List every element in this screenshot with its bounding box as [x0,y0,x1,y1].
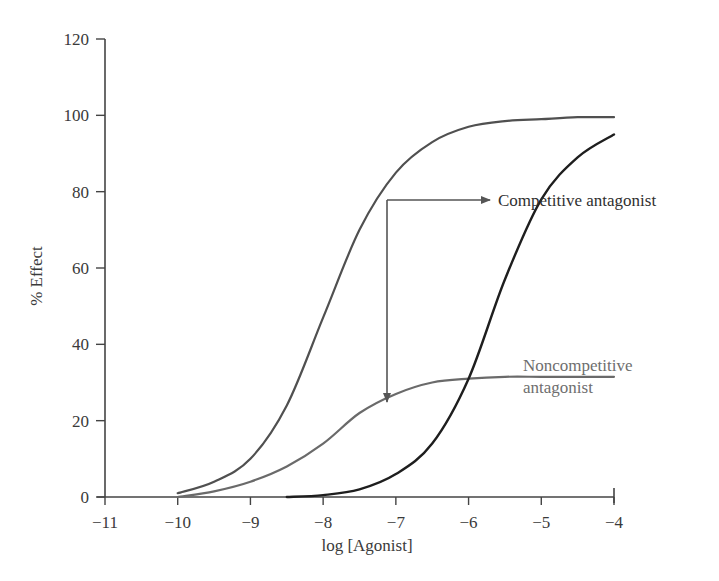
axes [97,39,614,503]
y-axis-title: % Effect [27,246,46,306]
y-ticks: 020406080100120 [64,30,106,507]
agonist-alone-curve [178,117,614,493]
y-tick-label: 120 [64,30,90,49]
annotations: Competitive antagonist Noncompetitive an… [387,191,656,402]
x-axis-title: log [Agonist] [321,536,412,555]
competitive-antagonist-label: Competitive antagonist [498,191,656,210]
y-tick-label: 40 [72,335,89,354]
x-tick-label: −11 [92,513,118,532]
y-tick-label: 20 [72,412,89,431]
y-tick-label: 0 [81,488,90,507]
y-tick-label: 60 [72,259,89,278]
x-tick-label: −9 [241,513,259,532]
y-tick-label: 100 [64,106,90,125]
x-tick-label: −10 [164,513,191,532]
x-tick-label: −5 [532,513,550,532]
x-tick-label: −7 [387,513,406,532]
competitive-curve [287,134,614,497]
noncompetitive-antagonist-label-line2: antagonist [523,378,593,397]
noncompetitive-antagonist-label-line1: Noncompetitive [523,356,633,375]
y-tick-label: 80 [72,183,89,202]
x-ticks: −11−10−9−8−7−6−5−4 [92,497,624,532]
series-lines [178,117,614,497]
x-tick-label: −6 [460,513,478,532]
x-tick-label: −8 [314,513,332,532]
dose-response-chart: 020406080100120 −11−10−9−8−7−6−5−4 log [… [0,0,719,581]
x-tick-label: −4 [605,513,624,532]
